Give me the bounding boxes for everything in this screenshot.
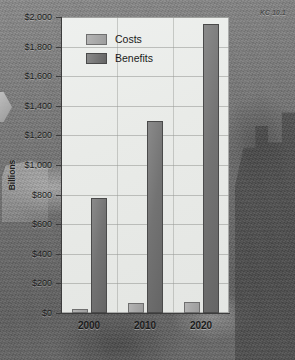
x-tick-label-2020: 2020	[171, 320, 231, 331]
y-tick-mark	[56, 76, 61, 77]
bar-benefits-2000	[91, 198, 107, 313]
y-tick-label: $0	[2, 308, 52, 318]
y-tick-mark	[56, 195, 61, 196]
x-tick-label-2000: 2000	[59, 320, 119, 331]
y-tick-mark	[56, 106, 61, 107]
y-axis-line	[61, 17, 62, 314]
y-tick-mark	[56, 224, 61, 225]
legend-swatch-costs	[86, 34, 107, 45]
y-tick-label: $2,000	[2, 12, 52, 22]
group-separator	[173, 17, 174, 313]
y-axis-label: Billions	[7, 145, 17, 205]
y-tick-label: $200	[2, 278, 52, 288]
legend-swatch-benefits	[86, 53, 107, 64]
x-tick-label-2010: 2010	[115, 320, 175, 331]
bar-benefits-2020	[203, 24, 219, 313]
y-tick-label: $1,400	[2, 101, 52, 111]
bar-costs-2010	[128, 303, 144, 313]
x-axis-line	[61, 313, 230, 314]
gridline	[61, 17, 229, 18]
y-tick-mark	[56, 165, 61, 166]
bar-costs-2020	[184, 302, 200, 313]
legend-item-costs: Costs	[86, 33, 153, 45]
y-tick-label: $600	[2, 219, 52, 229]
y-tick-label: $1,600	[2, 71, 52, 81]
bar-costs-2000	[72, 309, 88, 313]
y-tick-mark	[56, 135, 61, 136]
y-tick-label: $1,200	[2, 130, 52, 140]
y-tick-mark	[56, 254, 61, 255]
bar-benefits-2010	[147, 121, 163, 313]
y-tick-mark	[56, 283, 61, 284]
y-tick-label: $1,800	[2, 42, 52, 52]
bar-chart: $2,000$1,800$1,600$1,400$1,200$1,000$800…	[0, 0, 295, 360]
legend-label-benefits: Benefits	[115, 52, 153, 64]
y-tick-mark	[56, 17, 61, 18]
chart-legend: CostsBenefits	[86, 33, 153, 71]
y-tick-label: $400	[2, 249, 52, 259]
legend-item-benefits: Benefits	[86, 52, 153, 64]
y-tick-mark	[56, 47, 61, 48]
y-tick-mark	[56, 313, 61, 314]
legend-label-costs: Costs	[115, 33, 142, 45]
